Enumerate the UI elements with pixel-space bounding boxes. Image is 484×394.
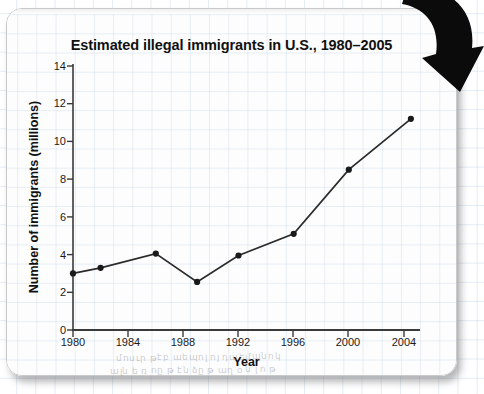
screenshot-root: Estimated illegal immigrants in U.S., 19… — [0, 0, 484, 394]
down-right-arrow-icon — [364, 0, 484, 116]
